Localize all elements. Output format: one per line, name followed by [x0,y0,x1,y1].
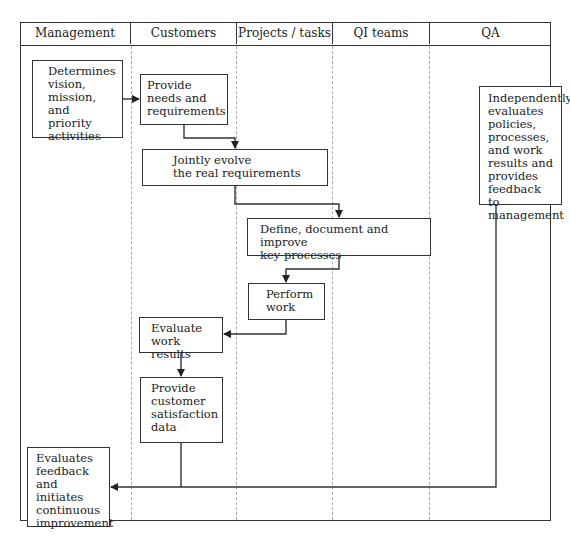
lane-header-qa: QA [430,22,551,44]
node-independently-evaluates: Independently evaluates policies, proces… [479,86,562,205]
node-evaluates-feedback: Evaluates feedback and initiates continu… [27,447,110,527]
node-provide-satisfaction: Provide customer satisfaction data [140,377,223,443]
lane-header-customers: Customers [131,22,237,44]
lane-header-qi-teams: QI teams [333,22,430,44]
lane-header-projects: Projects / tasks [237,22,333,44]
node-provide-needs: Provide needs and requirements [140,74,228,125]
node-define-document: Define, document and improve key process… [247,218,431,256]
lane-divider [236,46,237,520]
node-perform-work: Perform work [248,283,325,320]
node-jointly-evolve: Jointly evolve the real requirements [142,149,328,186]
lane-divider [429,46,430,520]
lane-header-row: Management Customers Projects / tasks QI… [20,22,551,46]
node-determines-vision: Determines vision, mission, and priority… [32,60,123,138]
lane-divider [332,46,333,520]
lane-divider [131,46,132,520]
lane-header-management: Management [20,22,131,44]
node-evaluate-results: Evaluate work results [139,317,223,353]
